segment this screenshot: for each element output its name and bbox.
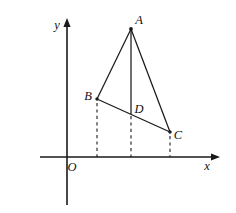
segment-AB bbox=[97, 29, 131, 99]
x-axis-arrow-icon bbox=[211, 153, 220, 160]
point-label-B: B bbox=[84, 90, 92, 103]
vertex-dot-A bbox=[129, 27, 133, 31]
geometry-figure: y x O A B D C bbox=[0, 0, 236, 213]
y-axis-arrow-icon bbox=[63, 18, 70, 27]
point-label-A: A bbox=[135, 14, 143, 27]
vertex-dot-C bbox=[168, 130, 171, 133]
vertex-dot-B bbox=[95, 97, 98, 100]
origin-label: O bbox=[67, 161, 76, 174]
x-axis-label: x bbox=[204, 160, 210, 173]
geometry-canvas bbox=[0, 0, 236, 213]
y-axis-label: y bbox=[54, 19, 60, 32]
point-label-C: C bbox=[174, 129, 182, 142]
point-label-D: D bbox=[134, 103, 143, 116]
